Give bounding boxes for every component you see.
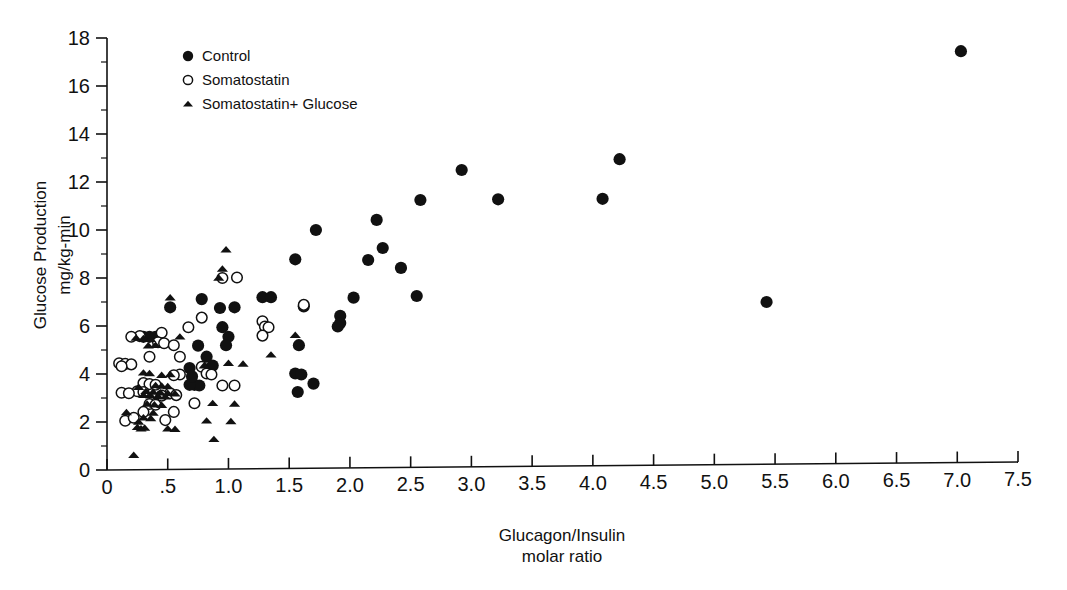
data-point-control (289, 253, 301, 265)
data-point-somatostatin (183, 322, 194, 333)
x-tick-label: 0 (101, 476, 112, 498)
plot-background (0, 0, 1067, 590)
data-point-control (307, 378, 319, 390)
legend-label: Control (202, 47, 250, 64)
data-point-control (220, 339, 232, 351)
data-point-control (955, 45, 967, 57)
x-tick-label: 4.5 (640, 471, 668, 493)
data-point-control (347, 292, 359, 304)
data-point-control (411, 290, 423, 302)
x-tick-label: .5 (159, 475, 176, 497)
x-axis-title-line1: Glucagon/Insulin (499, 526, 626, 545)
x-tick-label: 6.0 (822, 470, 850, 492)
x-axis-title-line2: molar ratio (522, 547, 602, 566)
data-point-somatostatin (298, 300, 309, 311)
data-point-somatostatin (160, 415, 171, 426)
y-tick-label: 18 (68, 27, 90, 49)
x-tick-label: 3.0 (457, 473, 485, 495)
data-point-control (371, 214, 383, 226)
data-point-control (192, 340, 204, 352)
data-point-control (293, 339, 305, 351)
x-tick-label: 2.0 (336, 474, 364, 496)
data-point-control (456, 164, 468, 176)
data-point-control (186, 370, 198, 382)
y-tick-label: 16 (68, 75, 90, 97)
scatter-plot-figure: 0246810121416180.51.01.52.02.53.03.54.04… (0, 0, 1067, 590)
data-point-somatostatin (169, 340, 180, 351)
data-point-control (760, 296, 772, 308)
y-tick-label: 8 (79, 267, 90, 289)
data-point-control (265, 291, 277, 303)
data-point-control (310, 224, 322, 236)
x-tick-label: 2.5 (397, 473, 425, 495)
data-point-somatostatin (206, 369, 217, 380)
x-tick-label: 1.5 (275, 474, 303, 496)
data-point-somatostatin (124, 388, 135, 399)
x-tick-label: 5.5 (761, 470, 789, 492)
x-tick-label: 4.0 (579, 472, 607, 494)
data-point-control (362, 254, 374, 266)
data-point-somatostatin (232, 272, 243, 283)
data-point-control (613, 153, 625, 165)
data-point-control (596, 193, 608, 205)
data-point-somatostatin (116, 361, 127, 372)
y-tick-label: 14 (68, 123, 90, 145)
data-point-somatostatin (257, 330, 268, 341)
data-point-control (377, 242, 389, 254)
legend-marker-somatostatin (183, 75, 192, 84)
data-point-somatostatin (175, 351, 186, 362)
data-point-control (164, 301, 176, 313)
data-point-control (395, 262, 407, 274)
x-tick-label: 7.0 (943, 469, 971, 491)
y-tick-label: 4 (79, 363, 90, 385)
y-axis-title-line2: mg/kg-min (55, 215, 74, 294)
data-point-control (196, 293, 208, 305)
data-point-control (414, 194, 426, 206)
x-tick-label: 6.5 (883, 469, 911, 491)
data-point-control (214, 302, 226, 314)
x-tick-label: 5.0 (700, 471, 728, 493)
data-point-control (295, 368, 307, 380)
y-tick-label: 6 (79, 315, 90, 337)
plot-svg: 0246810121416180.51.01.52.02.53.03.54.04… (0, 0, 1067, 590)
x-tick-label: 1.0 (215, 475, 243, 497)
legend-label: Somatostatin+ Glucose (202, 95, 358, 112)
data-point-somatostatin (159, 338, 170, 349)
data-point-control (332, 320, 344, 332)
data-point-somatostatin (217, 380, 228, 391)
legend-label: Somatostatin (202, 71, 290, 88)
y-axis-title-line1: Glucose Production (31, 181, 50, 329)
y-tick-label: 0 (79, 459, 90, 481)
data-point-somatostatin (144, 351, 155, 362)
data-point-control (492, 193, 504, 205)
data-point-somatostatin (126, 359, 137, 370)
data-point-somatostatin (196, 312, 207, 323)
data-point-somatostatin (189, 398, 200, 409)
data-point-somatostatin (169, 407, 180, 418)
legend-marker-control (183, 51, 193, 61)
x-tick-label: 3.5 (518, 472, 546, 494)
y-tick-label: 12 (68, 171, 90, 193)
y-tick-label: 2 (79, 411, 90, 433)
data-point-control (292, 386, 304, 398)
x-tick-label: 7.5 (1004, 468, 1032, 490)
data-point-somatostatin (229, 380, 240, 391)
data-point-control (228, 301, 240, 313)
